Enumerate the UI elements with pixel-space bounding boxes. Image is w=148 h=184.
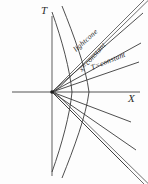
t-constant-rays-group bbox=[52, 13, 143, 168]
t-constant-ray-4 bbox=[52, 92, 131, 122]
t-constant-ray-5 bbox=[52, 92, 136, 150]
diagram-canvas: T X lightcone x=constant T=constant bbox=[0, 0, 148, 184]
time-axis-label: T bbox=[41, 4, 48, 16]
axes-group bbox=[12, 16, 140, 176]
origin-point bbox=[50, 90, 54, 94]
lightcone-ray-past-right-shadow bbox=[55, 92, 148, 183]
space-axis-label: X bbox=[127, 92, 136, 104]
t-constant-ray-6 bbox=[52, 92, 128, 168]
spacetime-diagram: T X lightcone x=constant T=constant bbox=[0, 0, 148, 184]
